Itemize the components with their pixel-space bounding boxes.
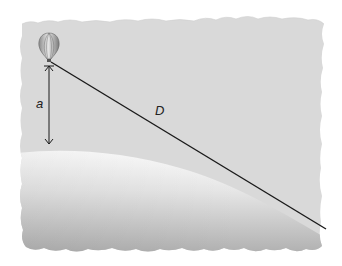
balloon-basket [47, 59, 51, 62]
height-label: a [36, 96, 43, 111]
distance-label: D [155, 103, 164, 118]
balloon-horizon-diagram [0, 0, 342, 266]
